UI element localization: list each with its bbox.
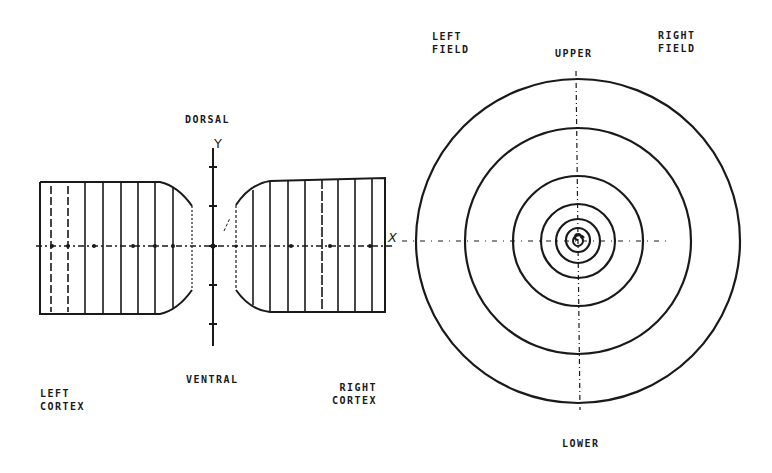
right-cortex-label-line1: RIGHT: [332, 381, 377, 394]
cortex-panel: [36, 148, 392, 346]
retinotopic-map-diagram: [0, 0, 772, 473]
visual-field-panel: [402, 71, 740, 410]
left-cortex-label: LEFT CORTEX: [40, 387, 85, 413]
x-axis-points: [50, 244, 372, 249]
right-cortex-outline: [236, 178, 385, 312]
ventral-label: VENTRAL: [186, 373, 239, 386]
meridian-mark: [224, 218, 230, 231]
x-axis-label: X: [388, 230, 397, 245]
y-axis-label: Y: [214, 136, 222, 151]
left-cortex-isolines: [51, 182, 192, 314]
left-cortex-label-line1: LEFT: [40, 387, 85, 400]
right-field-label-line2: FIELD: [658, 42, 696, 55]
upper-label: UPPER: [555, 47, 593, 60]
right-field-label-line1: RIGHT: [658, 29, 696, 42]
left-cortex-label-line2: CORTEX: [40, 400, 85, 413]
right-field-label: RIGHT FIELD: [658, 29, 696, 55]
right-cortex-isolines: [236, 178, 372, 312]
lower-label: LOWER: [562, 437, 600, 450]
left-field-label-line1: LEFT: [432, 30, 470, 43]
right-cortex-label: RIGHT CORTEX: [332, 381, 377, 407]
left-field-label-line2: FIELD: [432, 43, 470, 56]
left-cortex-outline: [40, 182, 192, 314]
left-field-label: LEFT FIELD: [432, 30, 470, 56]
right-cortex-label-line2: CORTEX: [332, 394, 377, 407]
dorsal-label: DORSAL: [185, 113, 230, 126]
